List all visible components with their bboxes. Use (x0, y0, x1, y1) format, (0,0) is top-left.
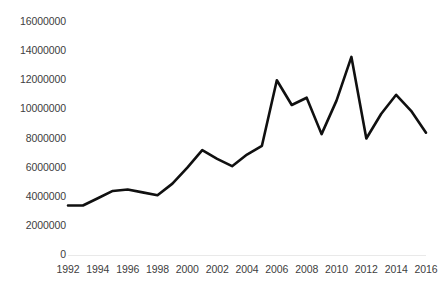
data-series-line (68, 57, 426, 206)
line-chart: 1600000014000000120000001000000080000006… (0, 0, 441, 298)
data-line-svg (0, 0, 441, 298)
plot-area (0, 0, 441, 298)
